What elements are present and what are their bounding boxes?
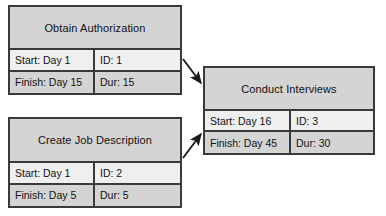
task-id-cell: ID: 1 [95, 50, 180, 70]
task-finish-cell: Finish: Day 15 [10, 72, 95, 94]
task-node-title: Obtain Authorization [10, 7, 180, 50]
task-node-title: Create Job Description [10, 119, 180, 163]
task-duration-cell: Dur: 30 [291, 132, 373, 153]
task-finish-cell: Finish: Day 5 [10, 185, 95, 207]
task-node-finish-row: Finish: Day 5 Dur: 5 [10, 185, 180, 207]
task-node-finish-row: Finish: Day 45 Dur: 30 [205, 132, 373, 153]
arrow-obtain-authorization-to-conduct-interviews [183, 59, 201, 83]
task-finish-cell: Finish: Day 45 [205, 132, 291, 153]
task-node-start-row: Start: Day 1 ID: 2 [10, 163, 180, 185]
arrow-create-job-description-to-conduct-interviews [183, 134, 201, 158]
task-node-obtain-authorization[interactable]: Obtain Authorization Start: Day 1 ID: 1 … [8, 5, 182, 95]
task-start-cell: Start: Day 16 [205, 111, 291, 130]
task-node-title: Conduct Interviews [205, 68, 373, 111]
task-id-cell: ID: 3 [291, 111, 373, 130]
task-node-start-row: Start: Day 1 ID: 1 [10, 50, 180, 72]
diagram-canvas: Obtain Authorization Start: Day 1 ID: 1 … [0, 0, 386, 216]
task-start-cell: Start: Day 1 [10, 163, 95, 183]
task-duration-cell: Dur: 5 [95, 185, 180, 207]
task-start-cell: Start: Day 1 [10, 50, 95, 70]
task-node-conduct-interviews[interactable]: Conduct Interviews Start: Day 16 ID: 3 F… [203, 66, 375, 155]
task-duration-cell: Dur: 15 [95, 72, 180, 94]
task-node-create-job-description[interactable]: Create Job Description Start: Day 1 ID: … [8, 117, 182, 208]
task-id-cell: ID: 2 [95, 163, 180, 183]
task-node-start-row: Start: Day 16 ID: 3 [205, 111, 373, 132]
task-node-finish-row: Finish: Day 15 Dur: 15 [10, 72, 180, 94]
